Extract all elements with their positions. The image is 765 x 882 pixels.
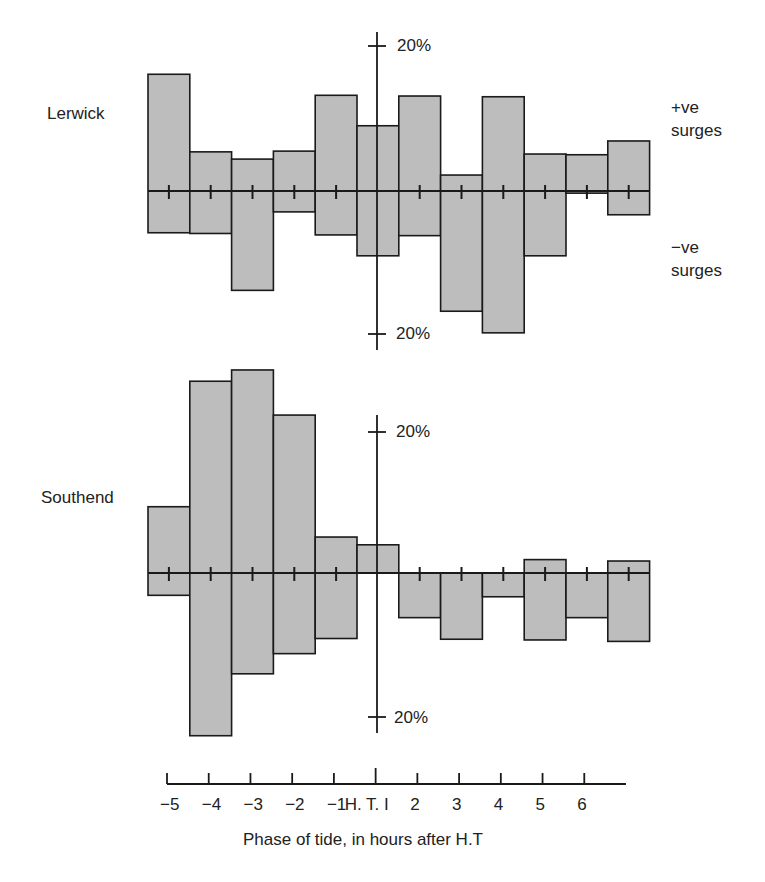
surge-bar: [441, 573, 483, 639]
x-tick-label: −5: [160, 795, 179, 815]
lerwick-label: Lerwick: [47, 104, 105, 124]
surge-bar: [232, 370, 274, 674]
lerwick-panel: [148, 32, 650, 350]
x-tick-label: 6: [577, 795, 586, 815]
x-tick-label: 4: [494, 795, 503, 815]
top-lower-scale-label: 20%: [396, 324, 430, 344]
x-tick-label: −3: [243, 795, 262, 815]
surge-bar: [232, 159, 274, 290]
surge-bar: [482, 97, 524, 333]
phase-x-axis: [167, 768, 626, 784]
negative-surges-label-line2: surges: [671, 261, 722, 281]
surge-bar: [273, 151, 315, 212]
x-tick-label: −4: [202, 795, 221, 815]
x-tick-label: H. T. I: [345, 795, 389, 815]
southend-label: Southend: [41, 488, 114, 508]
surge-frequency-chart: [0, 0, 765, 882]
surge-bar: [190, 381, 232, 735]
surge-bar: [148, 74, 190, 232]
surge-bar: [608, 141, 650, 215]
top-upper-scale-label: 20%: [397, 36, 431, 56]
positive-surges-label-line2: surges: [671, 121, 722, 141]
positive-surges-label-line1: +ve: [671, 98, 699, 118]
x-axis-title: Phase of tide, in hours after H.T: [243, 830, 483, 850]
x-tick-label: 5: [536, 795, 545, 815]
surge-bar: [399, 96, 441, 236]
x-tick-label: 2: [410, 795, 419, 815]
x-tick-label: 3: [452, 795, 461, 815]
surge-bar: [315, 537, 357, 638]
surge-bar: [273, 415, 315, 654]
surge-bar: [524, 154, 566, 256]
bottom-lower-scale-label: 20%: [394, 708, 428, 728]
surge-bar: [315, 95, 357, 235]
x-tick-label: −2: [285, 795, 304, 815]
negative-surges-label-line1: −ve: [671, 238, 699, 258]
x-tick-label: −1: [327, 795, 346, 815]
surge-bar: [148, 507, 190, 596]
bottom-upper-scale-label: 20%: [396, 422, 430, 442]
